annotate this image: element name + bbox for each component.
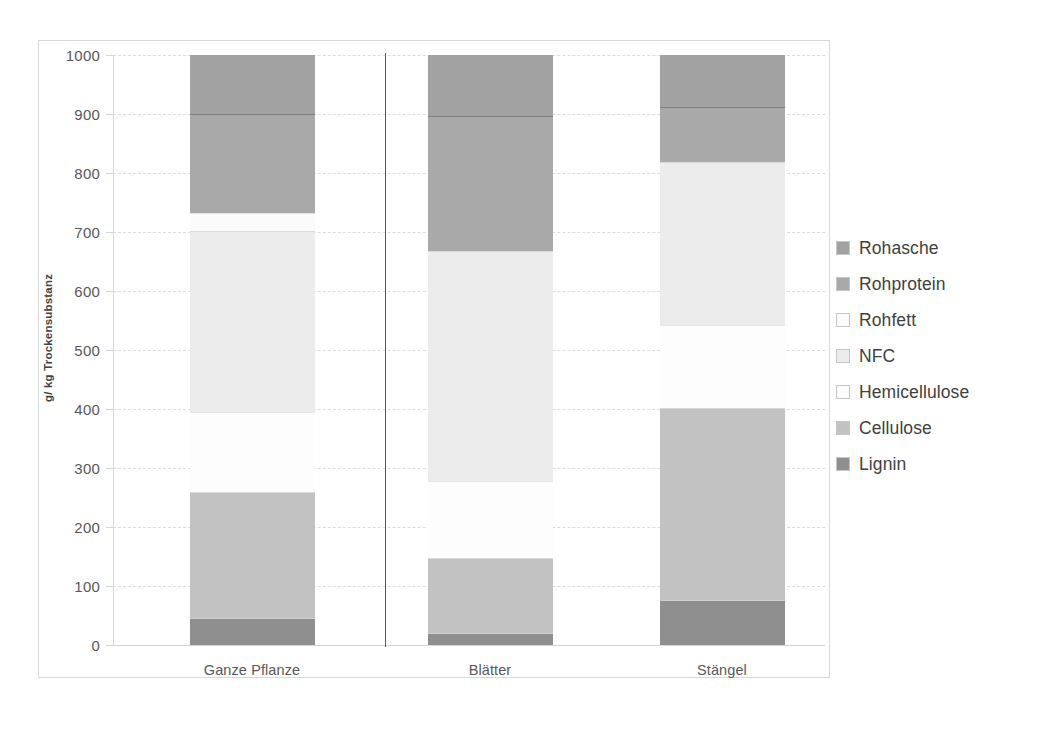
series-separator-line [385,53,386,647]
legend-label: Rohprotein [859,274,946,295]
legend-swatch-icon [836,277,850,291]
legend-item[interactable]: Rohprotein [836,266,1051,302]
legend-label: Lignin [859,454,906,475]
bar-segment [428,251,553,481]
bar-segment [428,481,553,558]
y-axis-title: g/ kg Trockensubstanz [42,274,54,402]
x-tick-label: Ganze Pflanze [132,662,372,678]
y-tick-label: 300 [74,460,100,477]
y-tick-label: 200 [74,519,100,536]
y-tick-label: 700 [74,224,100,241]
stacked-bar [428,55,553,645]
bar-segment [190,55,315,114]
bar-segment [660,107,785,162]
y-tick-mark [106,291,113,292]
legend-item[interactable]: NFC [836,338,1051,374]
legend-item[interactable]: Hemicellulose [836,374,1051,410]
bar-segment [428,558,553,633]
bar-segment [190,618,315,645]
y-tick-mark [106,55,113,56]
plot-area [113,55,825,645]
y-tick-mark [106,409,113,410]
bar-segment [190,213,315,232]
legend-item[interactable]: Rohfett [836,302,1051,338]
bar-segment [660,325,785,408]
legend-label: Rohfett [859,310,916,331]
stacked-bar [190,55,315,645]
legend-swatch-icon [836,385,850,399]
x-tick-label: Blätter [370,662,610,678]
y-tick-label: 1000 [66,47,100,64]
bar-segment [190,412,315,492]
legend-label: Hemicellulose [859,382,969,403]
bar-segment [428,633,553,645]
chart-figure: 10009008007006005004003002001000 g/ kg T… [0,0,1053,735]
y-tick-mark [106,468,113,469]
legend-swatch-icon [836,313,850,327]
y-tick-mark [106,645,113,646]
legend-swatch-icon [836,241,850,255]
bar-segment [660,55,785,107]
stacked-bar [660,55,785,645]
bar-segment [190,492,315,619]
legend-swatch-icon [836,421,850,435]
y-tick-label: 800 [74,165,100,182]
y-tick-mark [106,527,113,528]
y-tick-label: 900 [74,106,100,123]
chart-legend: RohascheRohproteinRohfettNFCHemicellulos… [836,230,1051,482]
bar-segment [190,231,315,412]
bar-segment [660,408,785,600]
y-tick-label: 500 [74,342,100,359]
y-tick-mark [106,173,113,174]
y-tick-label: 600 [74,283,100,300]
legend-item[interactable]: Lignin [836,446,1051,482]
y-tick-label: 400 [74,401,100,418]
y-tick-mark [106,232,113,233]
gridline [113,645,825,646]
y-tick-label: 0 [91,637,100,654]
legend-label: Cellulose [859,418,932,439]
y-tick-mark [106,114,113,115]
bar-segment [660,600,785,645]
legend-swatch-icon [836,457,850,471]
legend-item[interactable]: Rohasche [836,230,1051,266]
y-tick-mark [106,586,113,587]
legend-item[interactable]: Cellulose [836,410,1051,446]
x-tick-label: Stängel [602,662,842,678]
bar-segment [428,55,553,116]
legend-label: Rohasche [859,238,939,259]
bar-segment [428,116,553,252]
y-tick-label: 100 [74,578,100,595]
y-tick-mark [106,350,113,351]
bar-segment [660,162,785,325]
legend-label: NFC [859,346,895,367]
bar-segment [190,114,315,213]
legend-swatch-icon [836,349,850,363]
